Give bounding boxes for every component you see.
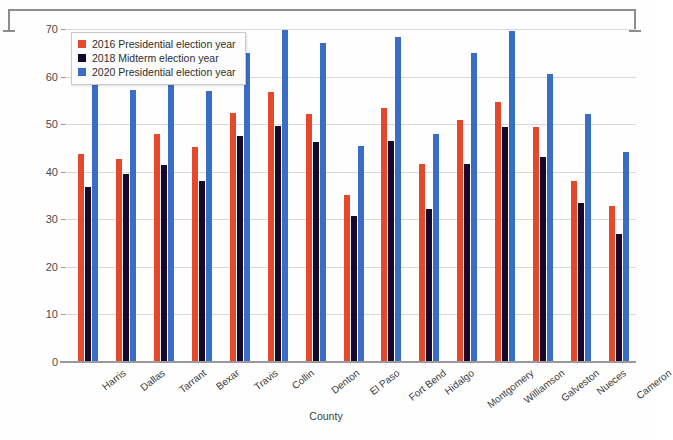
y-tick-mark [61,219,66,220]
bar[interactable] [381,108,387,362]
y-tick-label: 60 [32,72,58,83]
bar[interactable] [547,74,553,362]
chart-legend: 2016 Presidential election year2018 Midt… [71,32,246,85]
y-tick-mark [61,172,66,173]
y-tick-mark [61,77,66,78]
x-tick-label: Denton [329,368,361,396]
bar[interactable] [351,216,357,362]
bar[interactable] [585,114,591,362]
x-tick-label: Travis [252,368,279,392]
legend-label: 2016 Presidential election year [92,39,236,50]
bar[interactable] [502,127,508,362]
bar[interactable] [192,147,198,362]
bracket-tick-left [8,9,10,31]
x-tick-label: Cameron [635,368,673,401]
bar[interactable] [609,206,615,363]
bar[interactable] [78,154,84,362]
y-tick-mark [61,124,66,125]
bar[interactable] [358,146,364,362]
bar[interactable] [168,69,174,362]
bar[interactable] [206,91,212,362]
bar[interactable] [426,209,432,362]
bar[interactable] [571,181,577,362]
bar[interactable] [457,120,463,362]
legend-label: 2018 Midterm election year [92,53,219,64]
bar[interactable] [230,113,236,362]
bar[interactable] [161,165,167,362]
legend-item[interactable]: 2020 Presidential election year [78,65,236,79]
bar[interactable] [92,85,98,362]
bar-group [419,29,439,362]
bar[interactable] [578,203,584,362]
legend-item[interactable]: 2018 Midterm election year [78,51,236,65]
bracket-tick-right [634,9,636,31]
bar[interactable] [471,53,477,362]
bracket-foot-left [3,30,15,32]
bar[interactable] [116,159,122,362]
x-tick-label: Hidalgo [444,368,477,397]
bar[interactable] [464,164,470,362]
bar[interactable] [268,92,274,362]
y-tick-mark [61,314,66,315]
bar[interactable] [395,37,401,362]
bar[interactable] [388,141,394,362]
legend-item[interactable]: 2016 Presidential election year [78,37,236,51]
bar[interactable] [306,114,312,362]
y-tick-label: 0 [32,357,58,368]
x-tick-label: Galveston [560,368,602,404]
x-tick-label: Collin [290,368,316,391]
x-tick-label: Harris [101,368,128,392]
bar[interactable] [130,90,136,362]
legend-label: 2020 Presidential election year [92,67,236,78]
x-tick-label: Fort Bend [408,368,449,403]
bar[interactable] [509,31,515,362]
bar-group [306,29,326,362]
x-axis-title: County [0,410,652,422]
bar-group [381,29,401,362]
bar[interactable] [244,53,250,362]
bar-group [344,29,364,362]
bar-group [457,29,477,362]
legend-swatch-icon [78,68,86,76]
bar[interactable] [275,126,281,362]
bar[interactable] [540,157,546,362]
legend-swatch-icon [78,54,86,62]
bar[interactable] [154,134,160,362]
legend-swatch-icon [78,40,86,48]
x-tick-label: El Paso [368,368,401,397]
y-tick-label: 50 [32,119,58,130]
bar[interactable] [313,142,319,362]
y-tick-mark [61,29,66,30]
x-tick-label: Nueces [595,368,628,397]
y-tick-label: 10 [32,309,58,320]
bar[interactable] [419,164,425,362]
x-tick-label: Bexar [214,368,241,392]
bar[interactable] [433,134,439,362]
bar-group [571,29,591,362]
bar[interactable] [85,187,91,362]
bar[interactable] [495,102,501,362]
bar[interactable] [199,181,205,362]
bar[interactable] [123,174,129,362]
bar[interactable] [320,43,326,362]
bar[interactable] [616,234,622,362]
y-tick-label: 40 [32,167,58,178]
bar[interactable] [282,30,288,362]
y-tick-label: 70 [32,24,58,35]
bar[interactable] [344,195,350,362]
bar-group [495,29,515,362]
y-tick-label: 20 [32,262,58,273]
bar[interactable] [533,127,539,362]
bar[interactable] [237,136,243,362]
y-tick-mark [61,267,66,268]
x-axis-line [60,361,636,363]
bar-group [268,29,288,362]
x-tick-label: Tarrant [177,368,208,395]
bar[interactable] [623,152,629,362]
y-tick-label: 30 [32,214,58,225]
x-tick-label: Dallas [139,368,167,393]
bar-group [533,29,553,362]
bar-group [609,29,629,362]
bracket-span [8,9,636,11]
